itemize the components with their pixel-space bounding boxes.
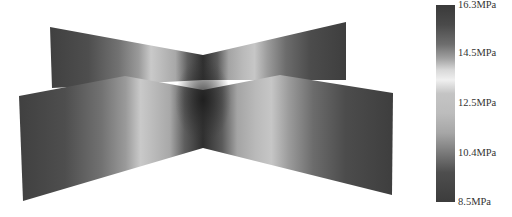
colorbar-label-3: 12.5MPa: [458, 97, 496, 109]
colorbar-label-2: 14.5MPa: [458, 47, 496, 59]
stress-concentration: [175, 58, 231, 142]
stress-contour-plot: [0, 0, 420, 217]
back-plane-right: [203, 22, 346, 80]
colorbar-label-4: 10.4MPa: [458, 147, 496, 159]
colorbar-label-max: 16.3MPa: [458, 0, 496, 11]
colorbar-label-min: 8.5MPa: [458, 196, 491, 208]
colorbar: [436, 5, 455, 202]
front-plane-right: [203, 75, 393, 195]
